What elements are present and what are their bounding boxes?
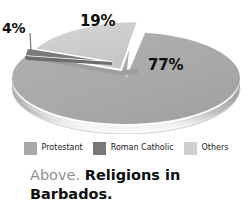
legend-label-protestant: Protestant bbox=[42, 144, 83, 152]
legend-label-roman-catholic: Roman Catholic bbox=[111, 144, 174, 152]
pie-label-others: 19% bbox=[80, 14, 115, 29]
legend-label-others: Others bbox=[202, 144, 229, 152]
leader-line-roman-catholic bbox=[30, 33, 31, 50]
pie-label-roman-catholic: 4% bbox=[2, 21, 25, 35]
legend-swatch-roman-catholic bbox=[93, 142, 106, 155]
pie-chart-graphic bbox=[0, 0, 252, 134]
legend-swatch-protestant bbox=[24, 142, 37, 155]
pie-label-protestant: 77% bbox=[148, 58, 183, 73]
legend-item-others[interactable]: Others bbox=[184, 142, 229, 155]
legend-item-roman-catholic[interactable]: Roman Catholic bbox=[93, 142, 174, 155]
chart-plot-area: 19% 4% 77% bbox=[0, 0, 252, 134]
legend-item-protestant[interactable]: Protestant bbox=[24, 142, 83, 155]
legend-swatch-others bbox=[184, 142, 197, 155]
caption-prefix: Above. bbox=[30, 167, 80, 183]
chart-legend: Protestant Roman Catholic Others bbox=[0, 136, 252, 160]
figure-caption: Above. Religions in Barbados. bbox=[30, 166, 245, 204]
pie-chart-figure: 19% 4% 77% Protestant Roman Catholic Oth… bbox=[0, 0, 252, 209]
